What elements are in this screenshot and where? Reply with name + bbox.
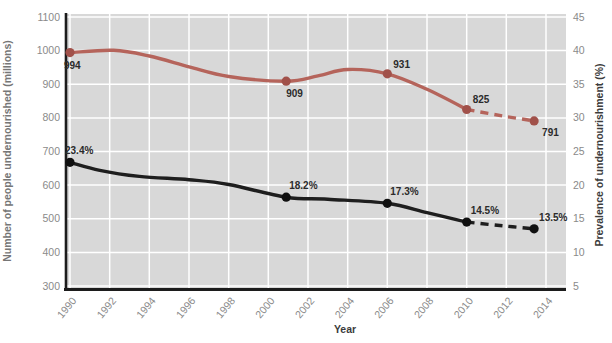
data-point-label-undernourished-millions: 791 xyxy=(542,127,559,138)
y-left-tick-label: 900 xyxy=(42,78,60,90)
plot-layer: 3004005006007008009001000110051015202530… xyxy=(37,11,585,321)
chart-figure: 3004005006007008009001000110051015202530… xyxy=(0,0,612,343)
x-tick-label: 2002 xyxy=(292,294,316,320)
y-right-tick-label: 25 xyxy=(573,145,585,157)
y-left-tick-label: 400 xyxy=(42,246,60,258)
x-tick-label: 1990 xyxy=(54,294,78,320)
data-point-marker-undernourished-millions xyxy=(383,69,392,78)
y-axis-right-title: Prevalence of undernourishment (%) xyxy=(593,63,605,246)
data-point-label-undernourished-millions: 994 xyxy=(64,60,81,71)
y-right-tick-label: 40 xyxy=(573,44,585,56)
data-point-marker-prevalence-percent xyxy=(462,218,471,227)
y-right-tick-label: 15 xyxy=(573,212,585,224)
data-point-label-prevalence-percent: 14.5% xyxy=(471,205,499,216)
y-left-tick-label: 800 xyxy=(42,111,60,123)
x-tick-label: 2014 xyxy=(530,294,554,320)
data-point-label-prevalence-percent: 23.4% xyxy=(65,145,93,156)
data-point-marker-prevalence-percent xyxy=(383,199,392,208)
data-point-marker-prevalence-percent xyxy=(65,158,74,167)
data-point-label-undernourished-millions: 909 xyxy=(286,88,303,99)
x-tick-label: 1996 xyxy=(173,294,197,320)
y-left-tick-label: 700 xyxy=(42,145,60,157)
x-tick-label: 2012 xyxy=(491,294,515,320)
y-right-tick-label: 20 xyxy=(573,179,585,191)
y-left-tick-label: 1100 xyxy=(37,11,60,23)
data-point-label-undernourished-millions: 931 xyxy=(393,59,410,70)
y-left-tick-label: 1000 xyxy=(37,44,61,56)
y-right-tick-label: 10 xyxy=(573,246,585,258)
data-point-label-prevalence-percent: 17.3% xyxy=(390,186,418,197)
data-point-marker-prevalence-percent xyxy=(282,193,291,202)
x-tick-label: 2004 xyxy=(332,294,356,320)
x-tick-label: 2010 xyxy=(451,294,475,320)
y-left-tick-label: 600 xyxy=(42,179,60,191)
y-axis-left-title: Number of people undernourished (million… xyxy=(1,40,13,262)
x-axis-title: Year xyxy=(334,323,356,335)
y-left-tick-label: 300 xyxy=(42,280,60,292)
data-point-label-prevalence-percent: 18.2% xyxy=(289,180,317,191)
x-tick-label: 2000 xyxy=(253,294,277,320)
data-point-label-undernourished-millions: 825 xyxy=(473,94,490,105)
y-right-tick-label: 30 xyxy=(573,111,585,123)
y-right-tick-label: 5 xyxy=(573,280,579,292)
data-point-marker-undernourished-millions xyxy=(530,116,539,125)
data-point-marker-undernourished-millions xyxy=(282,77,291,86)
y-left-tick-label: 500 xyxy=(42,212,60,224)
x-tick-label: 2006 xyxy=(372,294,396,320)
x-tick-label: 1998 xyxy=(213,294,237,320)
x-tick-label: 1994 xyxy=(134,294,158,320)
x-tick-label: 1992 xyxy=(94,294,118,320)
y-right-tick-label: 35 xyxy=(573,78,585,90)
y-right-tick-label: 45 xyxy=(573,11,585,23)
data-point-marker-prevalence-percent xyxy=(530,224,539,233)
line-chart: 3004005006007008009001000110051015202530… xyxy=(0,0,612,343)
data-point-marker-undernourished-millions xyxy=(462,105,471,114)
x-tick-label: 2008 xyxy=(411,294,435,320)
data-point-marker-undernourished-millions xyxy=(65,48,74,57)
data-point-label-prevalence-percent: 13.5% xyxy=(539,212,567,223)
